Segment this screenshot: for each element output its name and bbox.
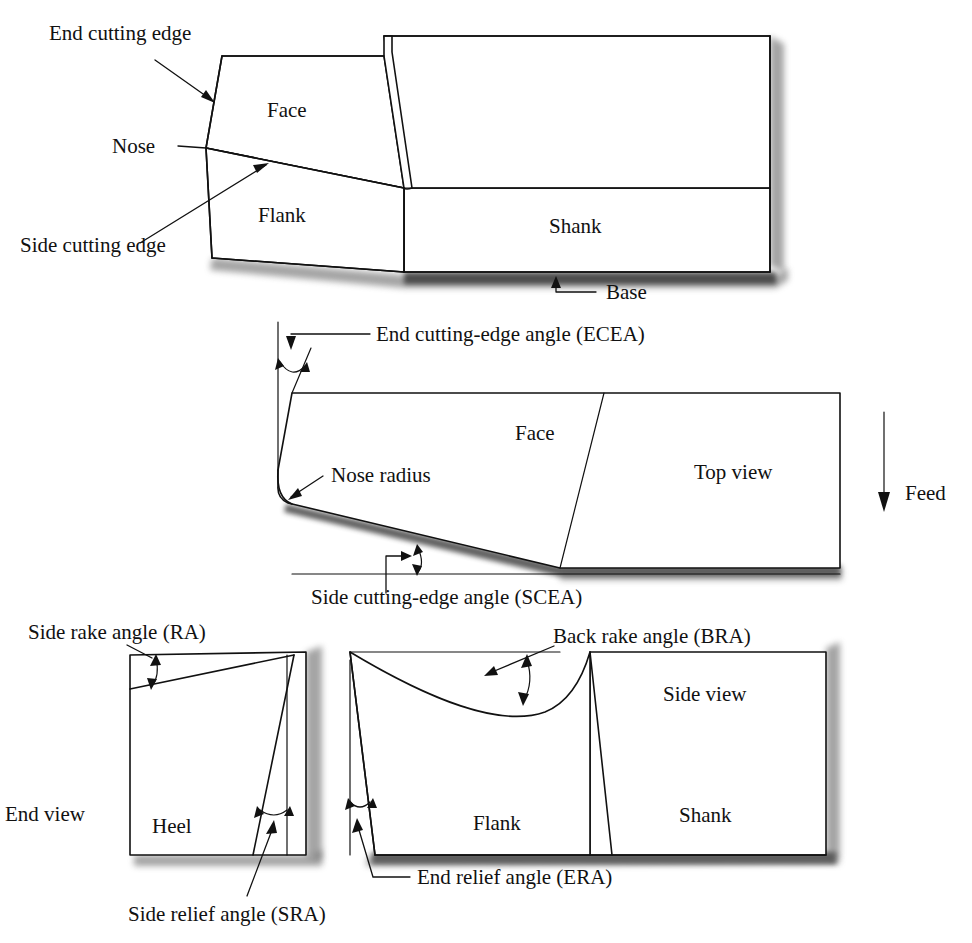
- label-shank-isometric: Shank: [549, 214, 602, 238]
- back-rake-leader-arrowhead: [484, 666, 498, 676]
- ecea-arc-arrow-left: [275, 358, 284, 370]
- cutting-tool-diagram: End cutting edge Nose Side cutting edge …: [0, 0, 972, 943]
- label-top-view: Top view: [694, 460, 773, 484]
- label-side-cutting-edge: Side cutting edge: [20, 233, 166, 257]
- scea-leader-arrowhead: [401, 551, 412, 561]
- scea-arc-arrow-top: [413, 544, 423, 556]
- label-side-view: Side view: [663, 682, 747, 706]
- back-rake-arrow-bottom: [518, 692, 529, 706]
- label-side-rake-angle: Side rake angle (RA): [28, 620, 206, 644]
- nose-leader: [178, 146, 206, 148]
- side-view-tool-body: [350, 652, 590, 855]
- isometric-view-group: End cutting edge Nose Side cutting edge …: [20, 21, 788, 304]
- label-flank-isometric: Flank: [258, 203, 306, 227]
- label-end-relief-angle: End relief angle (ERA): [417, 865, 612, 889]
- side-view-group: Back rake angle (BRA) Side view Flank Sh…: [345, 624, 840, 889]
- shank-top-face-isometric: [384, 36, 770, 188]
- end-cutting-edge-arrowhead: [201, 90, 215, 103]
- back-rake-leader: [492, 646, 554, 672]
- label-end-cutting-edge: End cutting edge: [49, 21, 191, 45]
- label-shank-sideview: Shank: [679, 803, 732, 827]
- top-view-group: End cutting-edge angle (ECEA) Nose radiu…: [275, 322, 946, 609]
- label-face-topview: Face: [515, 421, 555, 445]
- label-nose-radius: Nose radius: [331, 463, 431, 487]
- end-view-group: Side rake angle (RA) End view Heel Side …: [5, 620, 326, 926]
- label-heel: Heel: [152, 814, 192, 838]
- ecea-leader-arrowhead: [286, 336, 296, 350]
- label-end-view: End view: [5, 802, 86, 826]
- label-feed: Feed: [905, 481, 946, 505]
- end-relief-leader-arrowhead: [352, 818, 363, 833]
- label-ecea: End cutting-edge angle (ECEA): [376, 322, 645, 346]
- label-face-isometric: Face: [267, 98, 307, 122]
- label-base: Base: [606, 280, 647, 304]
- label-nose: Nose: [112, 134, 155, 158]
- label-flank-sideview: Flank: [473, 811, 521, 835]
- figure-canvas: End cutting edge Nose Side cutting edge …: [0, 0, 972, 943]
- label-scea: Side cutting-edge angle (SCEA): [311, 585, 582, 609]
- label-back-rake-angle: Back rake angle (BRA): [553, 624, 751, 648]
- label-side-relief-angle: Side relief angle (SRA): [128, 902, 326, 926]
- feed-arrowhead: [878, 492, 890, 512]
